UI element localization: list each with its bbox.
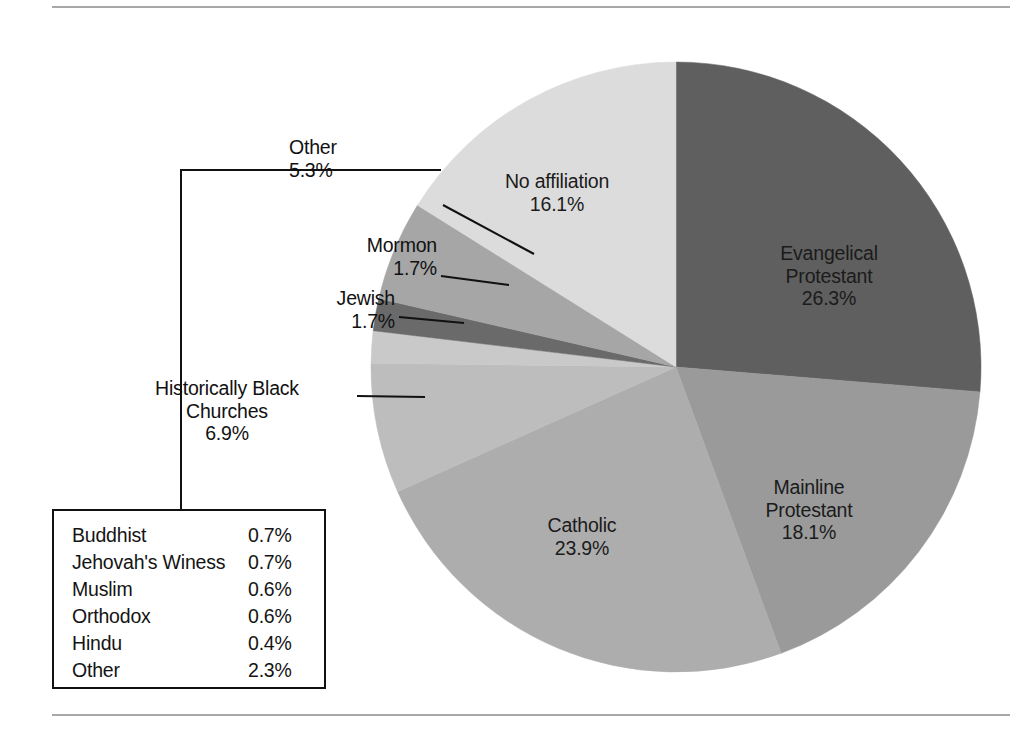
legend-row: Jehovah's Winess0.7% [72,549,308,576]
callout-jewish-name: Jewish [201,287,395,310]
slice-label-no-affiliation-name: No affiliation [443,170,671,193]
slice-label-catholic: Catholic 23.9% [482,514,682,559]
slice-label-no-affiliation-value: 16.1% [443,193,671,216]
legend-row-label: Hindu [72,630,230,657]
slice-label-mainline-protestant: Mainline Protestant 18.1% [709,476,909,544]
slice-label-mainline-line1: Mainline [709,476,909,499]
slice-label-evangelical-value: 26.3% [729,287,929,310]
callout-black-churches-line1: Historically Black [103,377,351,400]
other-breakdown-legend-box: Buddhist0.7%Jehovah's Winess0.7%Muslim0.… [52,509,326,689]
slice-label-mainline-line2: Protestant [709,499,909,522]
legend-row-value: 0.4% [230,630,308,657]
legend-row-value: 0.6% [230,576,308,603]
slice-label-mainline-value: 18.1% [709,521,909,544]
callout-other: Other 5.3% [241,136,441,181]
callout-jewish: Jewish 1.7% [201,287,395,332]
legend-row-label: Jehovah's Winess [72,549,230,576]
callout-other-value: 5.3% [289,159,441,182]
slice-label-evangelical-line2: Protestant [729,265,929,288]
slice-label-evangelical-line1: Evangelical [729,242,929,265]
pie-slice-evangelical-protestant[interactable] [676,62,981,392]
callout-historically-black-churches: Historically Black Churches 6.9% [103,377,351,445]
legend-row: Hindu0.4% [72,630,308,657]
slice-label-evangelical-protestant: Evangelical Protestant 26.3% [729,242,929,310]
legend-row-label: Orthodox [72,603,230,630]
legend-row-value: 0.6% [230,603,308,630]
pie-chart-figure: No affiliation 16.1% Evangelical Protest… [0,0,1030,741]
leader-line-black-churches [357,396,425,397]
callout-mormon-value: 1.7% [241,257,437,280]
legend-row: Orthodox0.6% [72,603,308,630]
legend-row-label: Buddhist [72,522,230,549]
other-breakdown-table: Buddhist0.7%Jehovah's Winess0.7%Muslim0.… [72,522,308,685]
slice-label-no-affiliation: No affiliation 16.1% [443,170,671,215]
callout-mormon: Mormon 1.7% [241,234,437,279]
legend-row-label: Muslim [72,576,230,603]
legend-row-label: Other [72,657,230,684]
legend-row-value: 0.7% [230,549,308,576]
callout-jewish-value: 1.7% [201,310,395,333]
legend-row-value: 0.7% [230,522,308,549]
legend-row-value: 2.3% [230,657,308,684]
callout-black-churches-line2: Churches [103,400,351,423]
pie-slices-group [371,62,981,672]
callout-mormon-name: Mormon [241,234,437,257]
legend-row: Buddhist0.7% [72,522,308,549]
legend-row: Muslim0.6% [72,576,308,603]
callout-other-name: Other [289,136,441,159]
slice-label-catholic-value: 23.9% [482,537,682,560]
slice-label-catholic-name: Catholic [482,514,682,537]
callout-black-churches-value: 6.9% [103,422,351,445]
legend-row: Other2.3% [72,657,308,684]
